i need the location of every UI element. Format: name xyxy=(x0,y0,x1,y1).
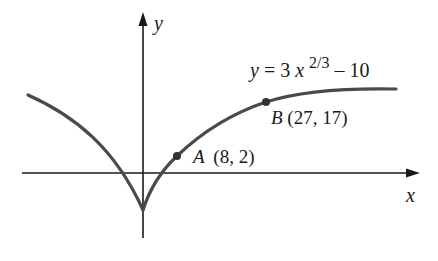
x-axis-arrow-icon xyxy=(406,169,420,178)
point-a-marker xyxy=(173,152,181,160)
equation-label: y = 3 x 2/3 – 10 xyxy=(248,50,370,82)
function-graph: y x A (8, 2) B (27, 17) y = 3 x 2/3 – 10 xyxy=(0,0,438,261)
point-b-label: B (27, 17) xyxy=(271,107,348,129)
point-a-label: A (8, 2) xyxy=(191,146,255,168)
curve-left-branch xyxy=(28,95,143,210)
point-b-coords: (27, 17) xyxy=(287,107,347,129)
equation-var: x xyxy=(294,59,304,81)
y-axis-arrow-icon xyxy=(139,12,148,26)
equation-rest: – 10 xyxy=(334,59,370,81)
point-a-coords: (8, 2) xyxy=(213,146,254,168)
equation-eq: = 3 xyxy=(264,59,290,81)
point-a-name: A xyxy=(191,146,205,167)
curve-right-branch xyxy=(143,89,396,210)
y-axis-label: y xyxy=(152,12,163,35)
x-axis-label: x xyxy=(405,184,415,206)
equation-exponent: 2/3 xyxy=(309,54,329,71)
x-axis xyxy=(22,169,420,178)
equation-lhs: y xyxy=(248,59,259,82)
point-b-marker xyxy=(262,98,270,106)
point-b-name: B xyxy=(271,107,283,128)
